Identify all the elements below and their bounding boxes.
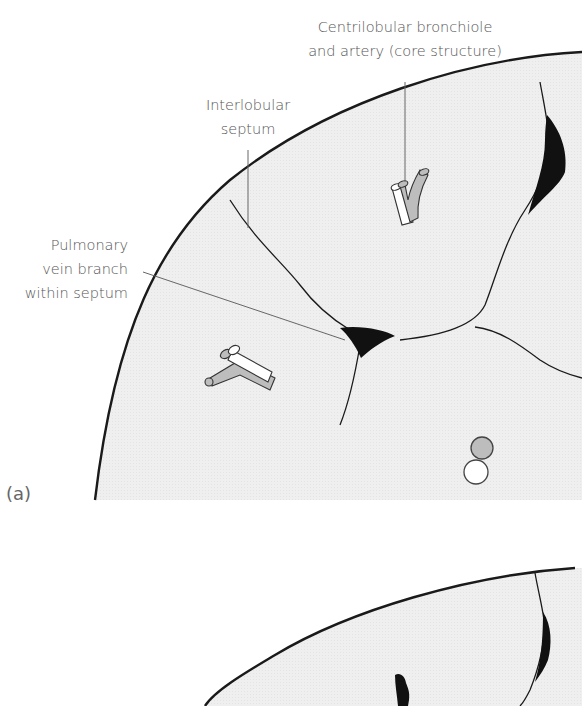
- artery-cross-section: [471, 437, 493, 459]
- label-septum-line1: Interlobular: [206, 97, 290, 113]
- label-vein-line3: within septum: [25, 285, 128, 301]
- label-vein-line1: Pulmonary: [51, 237, 128, 253]
- label-core-line1: Centrilobular bronchiole: [318, 19, 493, 35]
- label-core-line2: and artery (core structure): [308, 43, 502, 59]
- lung-lobule-diagram: Centrilobular bronchiole and artery (cor…: [0, 0, 582, 706]
- panel-label-a: (a): [6, 483, 31, 504]
- panel-a: Centrilobular bronchiole and artery (cor…: [6, 19, 582, 504]
- bronchiole-cross-section: [464, 460, 488, 484]
- lung-parenchyma-fill: [95, 52, 582, 500]
- panel-b: [205, 568, 582, 706]
- label-septum-line2: septum: [221, 121, 276, 137]
- lung-parenchyma-fill-b: [205, 568, 582, 706]
- label-vein-line2: vein branch: [42, 261, 128, 277]
